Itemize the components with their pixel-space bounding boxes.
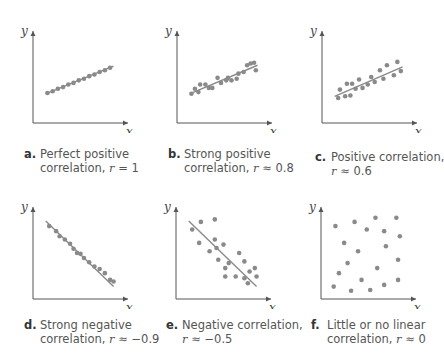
- data-point: [97, 70, 102, 75]
- y-axis-label: y: [308, 200, 316, 214]
- x-axis-label: x: [415, 125, 422, 133]
- data-point: [56, 86, 61, 91]
- caption-label-a: a.: [24, 147, 36, 161]
- data-point: [395, 60, 400, 65]
- data-point: [369, 75, 374, 80]
- caption-text-f: Little or no linear correlation, r ≈ 0: [327, 318, 426, 346]
- y-axis-label: y: [164, 24, 172, 38]
- scatter-plot-b: yx: [162, 18, 282, 133]
- caption-line1-a: Perfect positive: [40, 147, 129, 161]
- r-value-e: ≈ −0.5: [188, 332, 233, 346]
- caption-line1-e: Negative correlation,: [182, 318, 303, 332]
- y-axis-label: y: [309, 24, 317, 38]
- x-axis-label: x: [270, 125, 277, 133]
- caption-label-b: b.: [168, 147, 181, 161]
- data-point: [213, 217, 218, 222]
- data-point: [247, 269, 252, 274]
- caption-line1-c: Positive correlation,: [331, 150, 444, 164]
- data-point: [66, 82, 71, 87]
- data-point: [229, 78, 234, 83]
- data-point: [372, 80, 377, 85]
- data-point: [234, 76, 239, 81]
- data-point: [333, 224, 338, 229]
- data-point: [103, 68, 108, 73]
- scatter-plot-f: yx: [306, 194, 426, 309]
- data-point: [198, 82, 203, 87]
- data-point: [338, 87, 343, 92]
- data-point: [336, 96, 341, 101]
- data-point: [108, 65, 113, 70]
- y-axis-arrow-icon: [174, 207, 179, 212]
- data-point: [382, 283, 387, 288]
- panel-b: yx: [162, 18, 282, 133]
- caption-text-b: Strong positive correlation, r ≈ 0.8: [184, 147, 294, 175]
- r-value-d: ≈ −0.9: [115, 332, 160, 346]
- data-point: [396, 257, 401, 262]
- caption-line2-f: correlation,: [327, 332, 396, 346]
- data-point: [68, 241, 73, 246]
- data-point: [223, 274, 228, 279]
- data-point: [352, 220, 357, 225]
- r-value-c: ≈ 0.6: [337, 164, 372, 178]
- data-point: [394, 215, 399, 220]
- data-point: [392, 73, 397, 78]
- data-point: [203, 82, 208, 87]
- data-point: [345, 81, 350, 86]
- data-point: [196, 90, 201, 95]
- data-point: [360, 86, 365, 91]
- data-point: [331, 284, 336, 289]
- caption-line1-f: Little or no linear: [327, 318, 425, 332]
- data-point: [199, 220, 204, 225]
- data-point: [236, 71, 241, 76]
- caption-c: c. Positive correlation, r ≈ 0.6: [315, 150, 435, 180]
- x-axis-label: x: [126, 125, 133, 133]
- data-point: [50, 89, 55, 94]
- data-point: [337, 271, 342, 276]
- data-point: [242, 276, 247, 281]
- scatter-plot-d: yx: [18, 194, 138, 309]
- data-point: [353, 86, 358, 91]
- data-point: [213, 237, 218, 242]
- data-point: [381, 76, 386, 81]
- caption-label-f: f.: [311, 318, 320, 332]
- panel-e: yx: [161, 194, 281, 309]
- data-point: [233, 274, 238, 279]
- y-axis-arrow-icon: [31, 207, 36, 212]
- data-point: [219, 81, 224, 86]
- caption-label-e: e.: [166, 318, 178, 332]
- data-point: [71, 247, 76, 252]
- data-point: [223, 266, 228, 271]
- panel-a: yx: [18, 18, 138, 133]
- x-axis-label: x: [269, 301, 276, 309]
- data-point: [45, 91, 50, 96]
- scatter-plot-e: yx: [161, 194, 281, 309]
- data-point: [214, 246, 219, 251]
- data-point: [210, 86, 215, 91]
- data-point: [357, 77, 362, 82]
- data-point: [92, 72, 97, 77]
- data-point: [375, 266, 380, 271]
- data-point: [190, 227, 195, 232]
- data-point: [57, 234, 62, 239]
- data-point: [398, 234, 403, 239]
- y-axis-arrow-icon: [320, 31, 325, 36]
- caption-text-d: Strong negative correlation, r ≈ −0.9: [40, 318, 159, 346]
- data-point: [368, 288, 373, 293]
- caption-label-c: c.: [315, 150, 326, 164]
- data-point: [193, 86, 198, 91]
- data-point: [253, 266, 258, 271]
- panel-f: yx: [306, 194, 426, 309]
- data-point: [349, 289, 354, 294]
- data-point: [226, 261, 231, 266]
- x-axis-label: x: [414, 301, 421, 309]
- data-point: [364, 227, 369, 232]
- data-point: [71, 81, 76, 86]
- data-point: [92, 264, 97, 269]
- panel-c: yx: [307, 18, 427, 133]
- caption-line2-b: correlation,: [184, 161, 253, 175]
- data-point: [254, 68, 259, 73]
- caption-text-a: Perfect positive correlation, r = 1: [40, 147, 139, 175]
- caption-line2-a: correlation,: [40, 161, 109, 175]
- data-point: [342, 241, 347, 246]
- data-point: [385, 63, 390, 68]
